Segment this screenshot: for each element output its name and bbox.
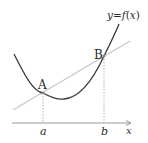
point-b [103,55,106,58]
curve-f [14,24,119,99]
point-a [42,92,45,95]
point-b-label: B [94,48,103,62]
point-a-label: A [37,78,47,92]
secant-line [13,41,130,110]
function-secant-diagram: A B a b x y=f(x) [0,0,148,143]
curve-label: y=f(x) [106,9,140,21]
x-tick-label-b: b [101,125,108,138]
x-axis-label: x [126,125,132,136]
x-tick-label-a: a [40,125,47,138]
